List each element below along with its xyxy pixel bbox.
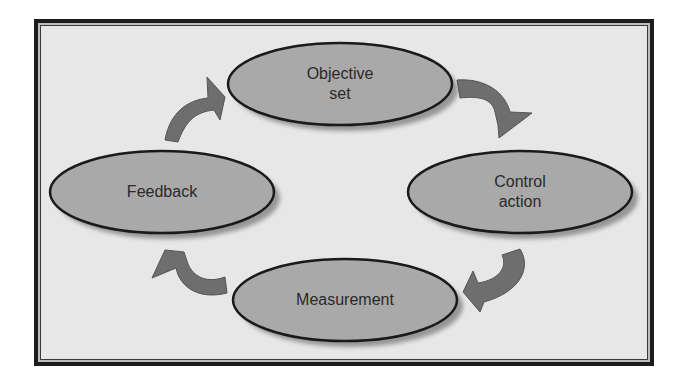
label-line: set bbox=[307, 84, 374, 104]
label-line: Measurement bbox=[296, 290, 394, 310]
node-objective-set-label: Objective set bbox=[307, 64, 374, 104]
node-feedback-label: Feedback bbox=[127, 182, 197, 202]
arrow-measurement-to-feedback-icon bbox=[152, 250, 227, 295]
arrow-control-to-measurement-icon bbox=[463, 249, 525, 312]
label-line: Objective bbox=[307, 64, 374, 84]
arrow-feedback-to-objective-icon bbox=[165, 77, 225, 142]
label-line: Control bbox=[494, 172, 546, 192]
node-measurement-label: Measurement bbox=[296, 290, 394, 310]
label-line: action bbox=[494, 192, 546, 212]
cycle-diagram bbox=[0, 0, 681, 385]
label-line: Feedback bbox=[127, 182, 197, 202]
arrow-objective-to-control-icon bbox=[457, 80, 532, 138]
node-control-action-label: Control action bbox=[494, 172, 546, 212]
